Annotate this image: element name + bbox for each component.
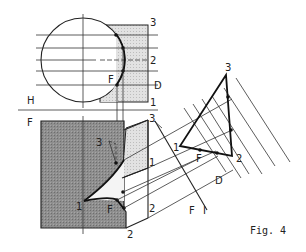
- label-F-aux: F: [196, 153, 202, 164]
- label-1-top: 1: [150, 97, 156, 108]
- label-2-top: 2: [150, 55, 156, 66]
- label-1-aux: 1: [173, 142, 179, 153]
- front-view: F 3 3 1 1 F 2 2: [27, 113, 155, 240]
- fi-fold-line: [155, 121, 207, 210]
- label-D-top: D: [154, 80, 162, 91]
- label-3-front-inner: 3: [96, 137, 102, 148]
- label-F-front-point: F: [107, 204, 113, 215]
- label-D-aux: D: [215, 175, 223, 186]
- label-F-front: F: [27, 117, 33, 128]
- figure-caption: Fig. 4: [250, 225, 286, 236]
- label-F-axis: F: [189, 205, 195, 216]
- label-H: H: [27, 95, 35, 106]
- label-3-front-right: 3: [149, 113, 155, 124]
- label-2-front-right: 2: [149, 203, 155, 214]
- label-3-aux: 3: [225, 62, 231, 73]
- label-3-top: 3: [150, 17, 156, 28]
- label-1-front-left: 1: [76, 201, 82, 212]
- label-2-front-bottom: 2: [127, 229, 133, 240]
- label-I-axis: I: [203, 205, 206, 216]
- label-F-top: F: [108, 74, 114, 85]
- label-2-aux: 2: [236, 153, 242, 164]
- auxiliary-view: 3 1 F 2 D F I: [173, 62, 290, 216]
- figure-canvas: 3 2 F D 1 H F 3 3 1 1: [0, 0, 306, 252]
